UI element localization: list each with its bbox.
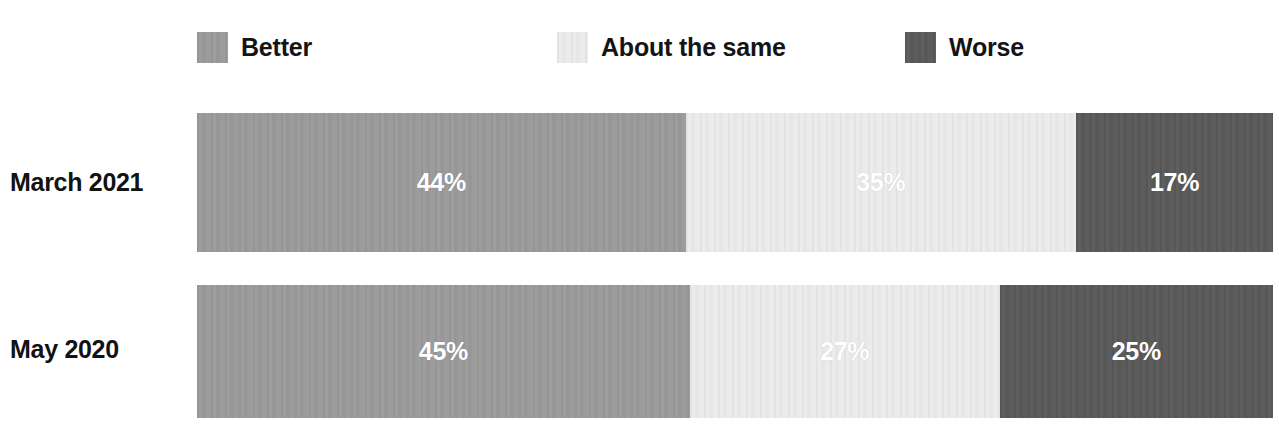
legend-item-about-the-same: About the same: [557, 30, 786, 64]
bar-segment-about-the-same: 35%: [686, 113, 1077, 252]
bar-row-label-may-2020: May 2020: [10, 337, 185, 362]
bar-row: March 2021 44% 35% 17%: [0, 113, 1279, 252]
legend-swatch-better: [197, 32, 228, 63]
bar-segment-value: 45%: [419, 339, 468, 364]
legend-swatch-about-the-same: [557, 32, 588, 63]
bar-segment-worse: 17%: [1076, 113, 1273, 252]
legend-item-better: Better: [197, 30, 312, 64]
bar-segment-worse: 25%: [1000, 285, 1273, 418]
bar-row: May 2020 45% 27% 25%: [0, 285, 1279, 418]
bar-segment-value: 44%: [417, 170, 466, 195]
bar-segment-value: 27%: [820, 339, 869, 364]
legend-swatch-worse: [905, 32, 936, 63]
bar-row-label-march-2021: March 2021: [10, 170, 185, 195]
chart-plot-area: March 2021 44% 35% 17% May 2020 45% 27% …: [0, 100, 1279, 440]
bar-segment-about-the-same: 27%: [690, 285, 1000, 418]
chart-legend: Better About the same Worse: [0, 0, 1279, 100]
legend-item-worse: Worse: [905, 30, 1024, 64]
bar-segment-value: 17%: [1150, 170, 1199, 195]
legend-label-about-the-same: About the same: [601, 35, 786, 60]
legend-label-worse: Worse: [949, 35, 1024, 60]
bar-segment-better: 45%: [197, 285, 690, 418]
bar-track: 45% 27% 25%: [197, 285, 1273, 418]
bar-segment-value: 25%: [1112, 339, 1161, 364]
bar-segment-value: 35%: [856, 170, 905, 195]
legend-label-better: Better: [241, 35, 312, 60]
bar-segment-better: 44%: [197, 113, 686, 252]
bar-track: 44% 35% 17%: [197, 113, 1273, 252]
